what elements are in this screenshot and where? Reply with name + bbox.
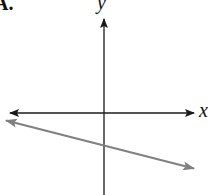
graph-line-left [6, 121, 100, 145]
graph-line [100, 145, 194, 169]
coordinate-plane [0, 0, 215, 195]
